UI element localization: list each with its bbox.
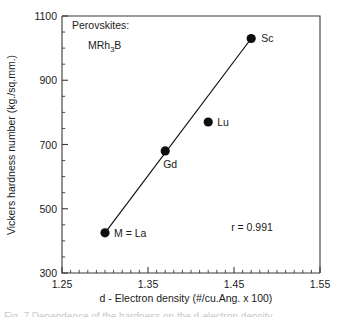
data-point-marker <box>204 117 213 126</box>
y-tick-label: 900 <box>39 74 57 86</box>
y-tick-label: 500 <box>39 203 57 215</box>
annotation-correlation: r = 0.991 <box>231 221 273 233</box>
y-tick-label: 1100 <box>34 10 57 22</box>
x-tick-label: 1.45 <box>224 278 245 290</box>
chart-figure: 1.251.351.451.55 3005007009001100 M = La… <box>0 0 341 317</box>
data-point-label: Lu <box>217 116 229 128</box>
annotation-group-title: Perovskites: <box>72 19 129 31</box>
x-tick-label: 1.25 <box>52 278 73 290</box>
data-point-marker <box>247 34 256 43</box>
data-point-marker <box>100 228 109 237</box>
formula-prefix: MRh <box>88 39 110 51</box>
x-tick-label: 1.35 <box>138 278 159 290</box>
data-point-label: M = La <box>114 227 147 239</box>
data-point-label: Gd <box>163 158 177 170</box>
data-point-marker <box>161 146 170 155</box>
y-axis-title: Vickers hardness number (kg./sq.mm.) <box>5 55 17 235</box>
formula-suffix: B <box>114 39 121 51</box>
x-axis-title: d - Electron density (#/cu.Ang. x 100) <box>100 292 273 304</box>
y-tick-label: 300 <box>39 267 57 279</box>
x-tick-label: 1.55 <box>310 278 331 290</box>
clipped-caption: Fig. 7 Dependence of the hardness on the… <box>0 308 341 317</box>
scatter-chart: 1.251.351.451.55 3005007009001100 M = La… <box>0 0 341 317</box>
y-tick-label: 700 <box>39 139 57 151</box>
data-point-label: Sc <box>261 32 273 44</box>
